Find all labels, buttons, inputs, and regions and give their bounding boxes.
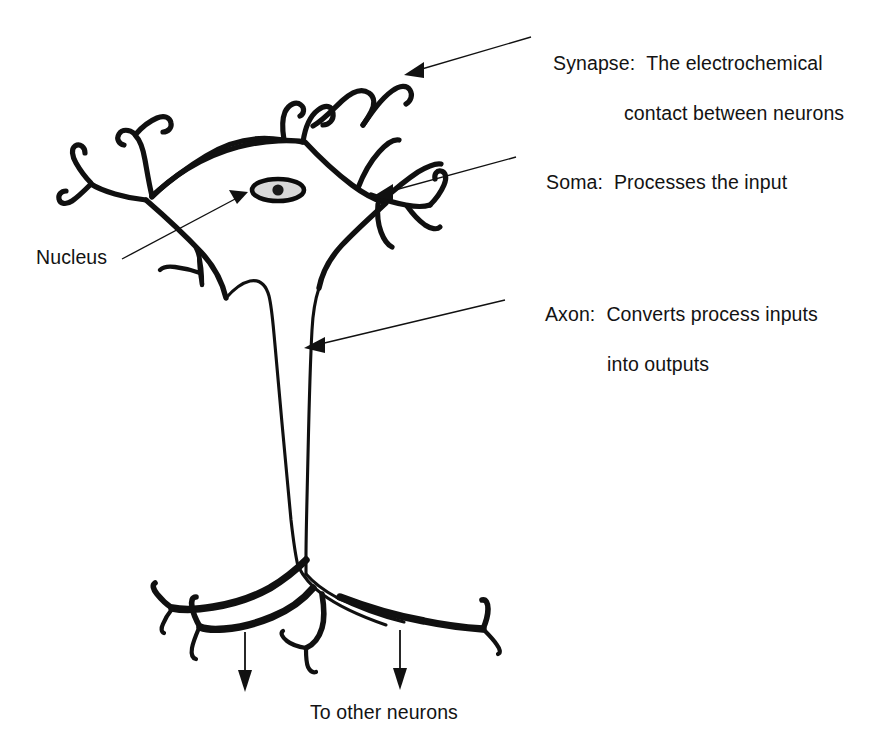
label-soma-gap [603, 171, 614, 193]
left-output-arrow [238, 632, 252, 692]
axon-leader-line [304, 300, 505, 353]
nucleolus-dot [272, 184, 283, 195]
label-synapse-desc-2: contact between neurons [531, 101, 844, 126]
label-soma: Soma: Processes the input [524, 145, 787, 220]
label-axon-term: Axon: [545, 303, 595, 325]
synapse-leader-line [404, 37, 531, 78]
label-axon: Axon: Converts process inputs into outpu… [524, 277, 818, 427]
axon-terminals [153, 560, 500, 672]
right-output-arrowhead [393, 668, 407, 690]
nucleus-arrowhead [229, 190, 248, 204]
axon-shaft [226, 281, 319, 574]
label-output-caption: To other neurons [310, 700, 458, 725]
label-axon-gap [595, 303, 606, 325]
synapse-arrowhead [404, 62, 424, 78]
label-axon-desc-2: into outputs [524, 352, 818, 377]
label-soma-desc-1: Processes the input [614, 171, 787, 193]
nucleus-shape [252, 179, 304, 201]
label-synapse-term: Synapse: [553, 52, 635, 74]
neuron-diagram-figure: Synapse: The electrochemical contact bet… [0, 0, 878, 746]
label-synapse-desc-1: The electrochemical [646, 52, 822, 74]
label-synapse-desc-line1 [635, 52, 646, 74]
axon-arrowhead [304, 337, 325, 353]
label-axon-desc-1: Converts process inputs [606, 303, 817, 325]
right-output-arrow [393, 630, 407, 690]
label-nucleus: Nucleus [36, 245, 107, 270]
soma-shape [146, 139, 386, 298]
label-soma-term: Soma: [546, 171, 603, 193]
left-output-arrowhead [238, 670, 252, 692]
